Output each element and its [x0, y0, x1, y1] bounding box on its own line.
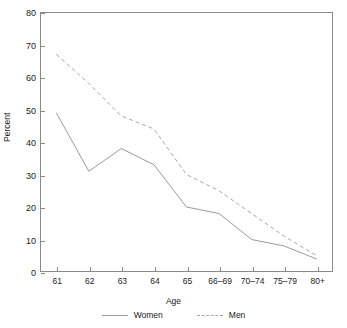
x-axis-title: Age: [0, 296, 347, 306]
y-axis-tick-label: 80: [26, 8, 36, 18]
x-axis-tick-label: 64: [150, 276, 159, 286]
y-axis-tick-label: 10: [26, 236, 36, 246]
x-axis-tick-label: 65: [183, 276, 192, 286]
legend-label: Men: [229, 310, 246, 320]
x-axis-tick-label: 66–69: [208, 276, 232, 286]
x-axis-tick-label: 62: [85, 276, 94, 286]
legend-item-women[interactable]: Women: [102, 310, 163, 320]
y-axis-title: Percent: [2, 113, 12, 142]
line-chart: 01020304050607080616263646566–6970–7475–…: [0, 0, 347, 328]
x-axis-tick-label: 63: [118, 276, 127, 286]
y-axis-tick-label: 50: [26, 106, 36, 116]
y-axis-tick-label: 30: [26, 171, 36, 181]
chart-title: [60, 0, 300, 3]
y-axis-tick-label: 70: [26, 41, 36, 51]
x-axis-tick-label: 61: [53, 276, 62, 286]
y-axis-tick-label: 60: [26, 73, 36, 83]
legend-label: Women: [134, 310, 163, 320]
chart-legend: WomenMen: [0, 310, 347, 320]
series-line-women: [56, 113, 316, 259]
y-axis-tick-label: 40: [26, 138, 36, 148]
series-line-men: [56, 54, 316, 256]
y-axis-tick-label: 0: [31, 268, 36, 278]
y-axis-tick-label: 20: [26, 203, 36, 213]
solid-line-icon: [102, 315, 128, 316]
x-axis-tick-label: 80+: [311, 276, 325, 286]
x-axis-tick-label: 75–79: [273, 276, 297, 286]
y-axis-tick: [41, 273, 45, 274]
dashed-line-icon: [197, 315, 223, 316]
series-lines: [40, 12, 333, 272]
legend-item-men[interactable]: Men: [197, 310, 246, 320]
x-axis-tick-label: 70–74: [241, 276, 265, 286]
